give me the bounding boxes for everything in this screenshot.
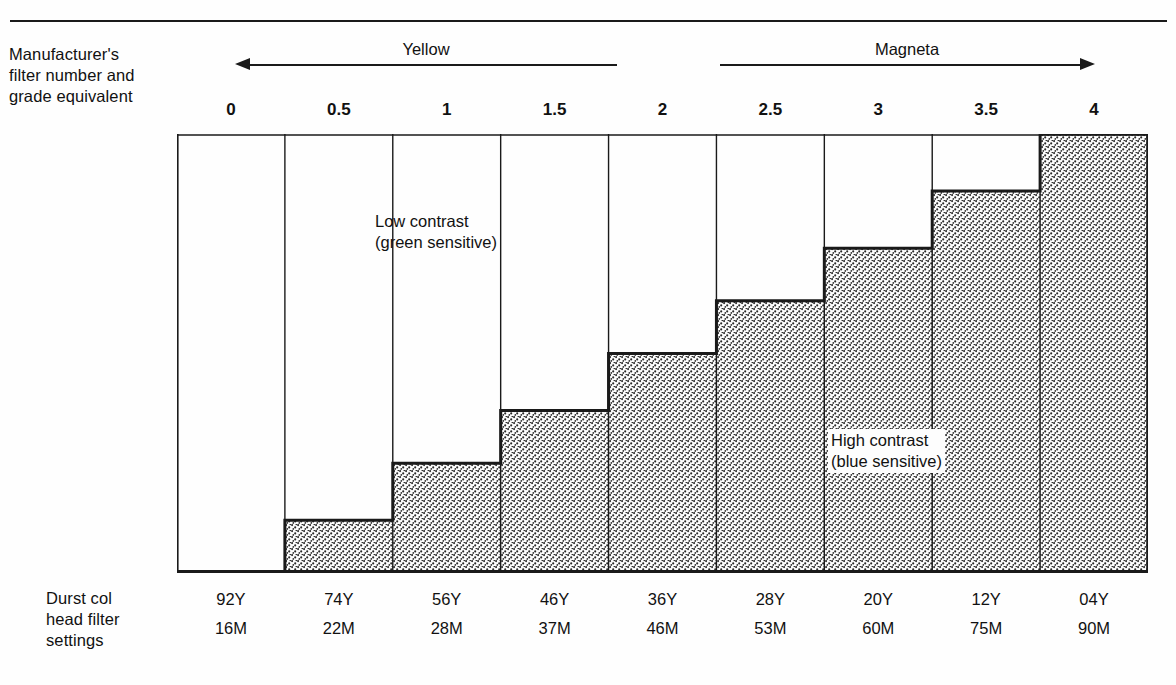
grade-number-1-5: 1.5 <box>501 100 609 120</box>
durst-setting-column-1: 56Y28M <box>393 585 501 643</box>
figure-canvas: Manufacturer's filter number and grade e… <box>0 0 1176 685</box>
durst-yellow-value: 92Y <box>177 585 285 614</box>
chart-svg <box>177 134 1148 573</box>
durst-setting-column-4: 04Y90M <box>1040 585 1148 643</box>
durst-magenta-value: 28M <box>393 614 501 643</box>
durst-yellow-value: 12Y <box>932 585 1040 614</box>
durst-setting-column-2-5: 28Y53M <box>716 585 824 643</box>
durst-yellow-value: 20Y <box>824 585 932 614</box>
durst-filter-settings-label: Durst col head filter settings <box>46 588 186 651</box>
durst-yellow-value: 28Y <box>716 585 824 614</box>
bar-2-5 <box>716 301 824 573</box>
magenta-band-title: Magneta <box>720 40 1094 59</box>
durst-yellow-value: 56Y <box>393 585 501 614</box>
durst-setting-column-1-5: 46Y37M <box>501 585 609 643</box>
durst-setting-column-3-5: 12Y75M <box>932 585 1040 643</box>
grade-number-3-5: 3.5 <box>932 100 1040 120</box>
durst-magenta-value: 16M <box>177 614 285 643</box>
bar-0-5 <box>285 520 393 573</box>
durst-setting-column-0-5: 74Y22M <box>285 585 393 643</box>
durst-magenta-value: 37M <box>501 614 609 643</box>
magenta-band-arrow-line <box>720 64 1080 66</box>
grade-number-1: 1 <box>393 100 501 120</box>
grade-number-0-5: 0.5 <box>285 100 393 120</box>
grade-number-2-5: 2.5 <box>716 100 824 120</box>
bar-4 <box>1040 134 1148 573</box>
yellow-band-arrow-line <box>249 64 617 66</box>
bar-1 <box>393 463 501 573</box>
magenta-arrow-right-icon <box>1080 58 1095 70</box>
durst-yellow-value: 46Y <box>501 585 609 614</box>
durst-setting-column-3: 20Y60M <box>824 585 932 643</box>
top-divider-rule <box>10 20 1167 22</box>
durst-magenta-value: 90M <box>1040 614 1148 643</box>
durst-magenta-value: 53M <box>716 614 824 643</box>
grade-number-0: 0 <box>177 100 285 120</box>
bar-3-5 <box>932 191 1040 573</box>
high-contrast-annotation: High contrast (blue sensitive) <box>828 429 945 473</box>
bar-1-5 <box>501 411 609 573</box>
durst-yellow-value: 04Y <box>1040 585 1148 614</box>
durst-magenta-value: 75M <box>932 614 1040 643</box>
durst-setting-column-2: 36Y46M <box>609 585 717 643</box>
yellow-arrow-left-icon <box>235 58 250 70</box>
bar-3 <box>824 248 932 573</box>
durst-magenta-value: 60M <box>824 614 932 643</box>
durst-yellow-value: 74Y <box>285 585 393 614</box>
grade-number-4: 4 <box>1040 100 1148 120</box>
durst-setting-column-0: 92Y16M <box>177 585 285 643</box>
durst-magenta-value: 22M <box>285 614 393 643</box>
durst-yellow-value: 36Y <box>609 585 717 614</box>
contrast-step-chart <box>177 134 1148 573</box>
manufacturer-filter-label: Manufacturer's filter number and grade e… <box>9 44 174 107</box>
durst-magenta-value: 46M <box>609 614 717 643</box>
grade-number-3: 3 <box>824 100 932 120</box>
bar-2 <box>609 354 717 574</box>
low-contrast-annotation: Low contrast (green sensitive) <box>372 210 500 254</box>
yellow-band-title: Yellow <box>235 40 617 59</box>
grade-number-2: 2 <box>609 100 717 120</box>
